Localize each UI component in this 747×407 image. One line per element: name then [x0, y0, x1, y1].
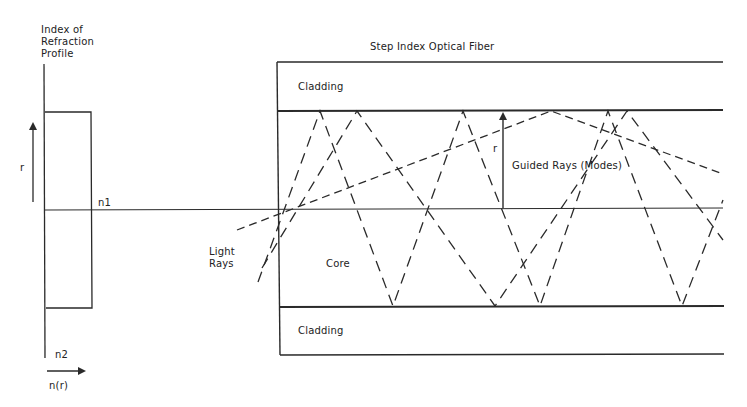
fiber-left-edge	[277, 62, 280, 355]
fiber-outer-bottom	[280, 354, 724, 355]
r-axis-label: r	[20, 162, 24, 174]
n-axis-label: n(r)	[49, 380, 68, 392]
core-label: Core	[326, 258, 350, 270]
cladding-bottom-label: Cladding	[298, 325, 344, 337]
n1-label: n1	[98, 197, 111, 209]
fiber-diagram	[0, 0, 747, 407]
profile-title: Index of Refraction Profile	[41, 24, 94, 60]
profile-vertical-axis	[44, 64, 45, 358]
fiber-title: Step Index Optical Fiber	[370, 41, 494, 53]
n2-label: n2	[55, 349, 68, 361]
cladding-top-label: Cladding	[298, 81, 344, 93]
radius-label: r	[493, 143, 497, 155]
ray-shallow	[237, 111, 723, 230]
light-rays-label: Light Rays	[209, 246, 235, 270]
core-top-boundary	[277, 110, 723, 111]
refraction-profile	[33, 64, 92, 371]
core-bottom-boundary	[279, 306, 724, 307]
guided-rays-label: Guided Rays (Modes)	[512, 160, 622, 172]
center-axis-line	[45, 208, 723, 210]
